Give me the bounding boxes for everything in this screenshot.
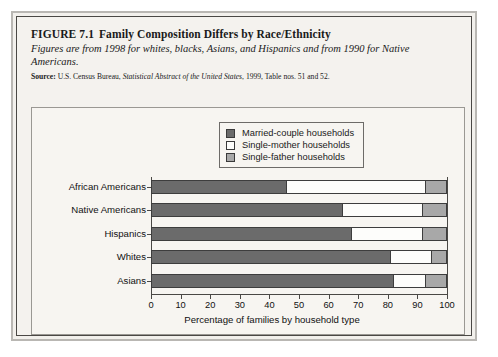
category-label: Hispanics bbox=[34, 227, 146, 241]
x-axis-tick-label: 0 bbox=[138, 300, 164, 311]
legend-swatch bbox=[226, 153, 235, 162]
category-label: Whites bbox=[34, 250, 146, 264]
y-axis-tick bbox=[147, 257, 151, 258]
category-label: Native Americans bbox=[34, 203, 146, 217]
x-axis-tick bbox=[447, 295, 448, 299]
bar-row bbox=[151, 274, 447, 288]
legend-label: Single-mother households bbox=[242, 139, 350, 151]
figure-source: Source: U.S. Census Bureau, Statistical … bbox=[31, 72, 457, 82]
figure-caption: FIGURE 7.1Family Composition Differs by … bbox=[31, 27, 457, 82]
source-text-after: , 1999, Table nos. 51 and 52. bbox=[242, 72, 330, 81]
x-axis-tick bbox=[151, 295, 152, 299]
x-axis-tick bbox=[358, 295, 359, 299]
x-axis-tick bbox=[240, 295, 241, 299]
bar-track bbox=[151, 227, 447, 241]
figure-subtitle: Figures are from 1998 for whites, blacks… bbox=[31, 43, 457, 68]
x-axis-tick-label: 90 bbox=[404, 300, 430, 311]
source-text-before: U.S. Census Bureau, bbox=[58, 72, 123, 81]
chart-panel: Married-couple householdsSingle-mother h… bbox=[31, 107, 465, 335]
chart-legend: Married-couple householdsSingle-mother h… bbox=[219, 122, 364, 168]
source-publication-title: Statistical Abstract of the United State… bbox=[123, 72, 242, 81]
bar-segment bbox=[151, 274, 394, 288]
x-axis-tick bbox=[210, 295, 211, 299]
legend-swatch bbox=[226, 129, 235, 138]
x-axis-tick bbox=[181, 295, 182, 299]
y-axis-tick bbox=[147, 281, 151, 282]
y-axis-tick bbox=[147, 210, 151, 211]
x-axis-tick-label: 20 bbox=[197, 300, 223, 311]
legend-label: Married-couple households bbox=[242, 127, 354, 139]
bar-segment bbox=[426, 180, 447, 194]
legend-item: Single-father households bbox=[226, 151, 354, 163]
figure-title: FIGURE 7.1Family Composition Differs by … bbox=[31, 27, 457, 41]
figure-title-text: Family Composition Differs by Race/Ethni… bbox=[99, 28, 331, 40]
bar-row bbox=[151, 227, 447, 241]
x-axis-tick-label: 40 bbox=[256, 300, 282, 311]
x-axis: 0102030405060708090100 bbox=[151, 295, 448, 313]
x-axis-tick-label: 70 bbox=[345, 300, 371, 311]
x-axis-tick bbox=[269, 295, 270, 299]
bar-segment bbox=[287, 180, 426, 194]
bar-segment bbox=[151, 227, 352, 241]
bar-segment bbox=[432, 250, 447, 264]
legend-label: Single-father households bbox=[242, 151, 345, 163]
bar-segment bbox=[423, 227, 447, 241]
legend-item: Single-mother households bbox=[226, 139, 354, 151]
x-axis-tick bbox=[299, 295, 300, 299]
bar-segment bbox=[394, 274, 427, 288]
bar-segment bbox=[391, 250, 432, 264]
bar-track bbox=[151, 274, 447, 288]
plot-area bbox=[151, 177, 447, 294]
x-axis-tick-label: 50 bbox=[286, 300, 312, 311]
bar-row bbox=[151, 180, 447, 194]
x-axis-tick-label: 30 bbox=[227, 300, 253, 311]
figure-frame: FIGURE 7.1Family Composition Differs by … bbox=[11, 11, 477, 341]
bar-segment bbox=[343, 203, 423, 217]
x-axis-title: Percentage of families by household type bbox=[92, 314, 452, 325]
figure-number: FIGURE 7.1 bbox=[31, 28, 94, 40]
bar-segment bbox=[426, 274, 447, 288]
figure-inner-border: FIGURE 7.1Family Composition Differs by … bbox=[16, 16, 472, 336]
x-axis-tick bbox=[417, 295, 418, 299]
x-axis-tick bbox=[388, 295, 389, 299]
bar-row bbox=[151, 250, 447, 264]
bar-segment bbox=[423, 203, 447, 217]
bar-track bbox=[151, 203, 447, 217]
y-axis-category-labels: African AmericansNative AmericansHispani… bbox=[32, 177, 146, 294]
bar-segment bbox=[151, 180, 287, 194]
bar-row bbox=[151, 203, 447, 217]
y-axis-tick bbox=[147, 187, 151, 188]
x-axis-tick-label: 80 bbox=[375, 300, 401, 311]
legend-swatch bbox=[226, 141, 235, 150]
plot-right-border bbox=[447, 177, 448, 295]
bar-segment bbox=[151, 203, 343, 217]
x-axis-tick-label: 60 bbox=[316, 300, 342, 311]
bar-segment bbox=[151, 250, 391, 264]
x-axis-tick-label: 100 bbox=[434, 300, 460, 311]
x-axis-tick bbox=[329, 295, 330, 299]
source-label: Source: bbox=[31, 72, 56, 81]
bar-track bbox=[151, 250, 447, 264]
y-axis-tick bbox=[147, 234, 151, 235]
category-label: African Americans bbox=[34, 180, 146, 194]
category-label: Asians bbox=[34, 274, 146, 288]
bar-track bbox=[151, 180, 447, 194]
x-axis-tick-label: 10 bbox=[168, 300, 194, 311]
bar-segment bbox=[352, 227, 423, 241]
legend-item: Married-couple households bbox=[226, 127, 354, 139]
